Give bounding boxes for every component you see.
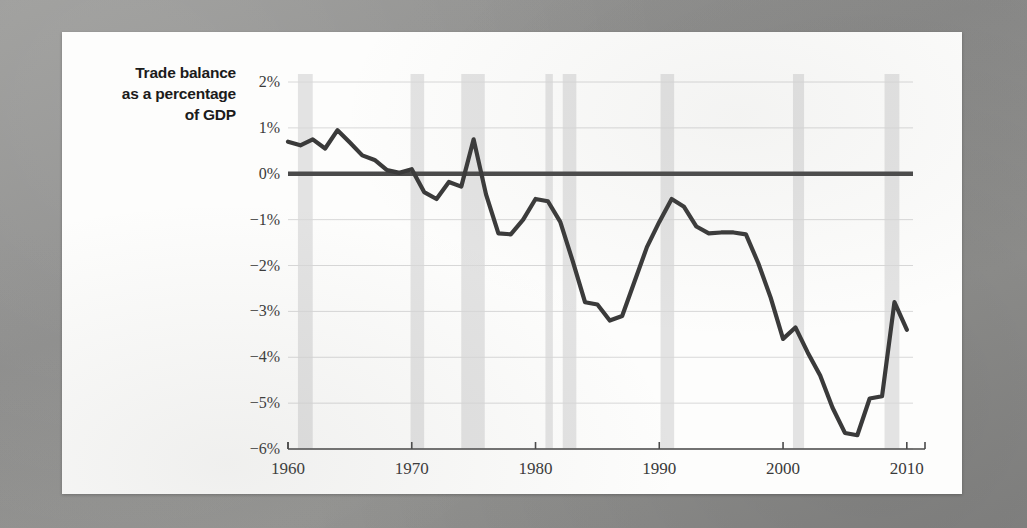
- x-axis-tick-label: 1990: [642, 459, 676, 479]
- figure-card: Trade balance as a percentage of GDP 2%1…: [62, 32, 962, 494]
- y-axis-tick-label: −1%: [224, 211, 280, 229]
- page-background: Trade balance as a percentage of GDP 2%1…: [0, 0, 1027, 528]
- y-axis-tick-label: −6%: [224, 440, 280, 458]
- x-axis-tick-label: 1960: [271, 459, 305, 479]
- y-axis-tick-label: 1%: [224, 119, 280, 137]
- x-axis-tick-label: 2010: [890, 459, 924, 479]
- y-axis-tick-label: −4%: [224, 348, 280, 366]
- recession-band: [793, 74, 804, 449]
- y-axis-tick-label: −5%: [224, 394, 280, 412]
- x-axis-tick-label: 1980: [519, 459, 553, 479]
- recession-band: [298, 74, 313, 449]
- recession-band: [885, 74, 900, 449]
- chart-svg: [62, 32, 962, 494]
- recession-band: [411, 74, 425, 449]
- y-axis-tick-label: 0%: [224, 165, 280, 183]
- y-axis-tick-label: −2%: [224, 257, 280, 275]
- recession-band: [661, 74, 675, 449]
- x-axis-tick-label: 2000: [766, 459, 800, 479]
- recession-band: [545, 74, 552, 449]
- x-axis-tick-label: 1970: [395, 459, 429, 479]
- y-axis-tick-label: −3%: [224, 302, 280, 320]
- y-axis-tick-label: 2%: [224, 73, 280, 91]
- recession-band: [461, 74, 485, 449]
- chart-plot-area: Trade balance as a percentage of GDP 2%1…: [62, 32, 962, 494]
